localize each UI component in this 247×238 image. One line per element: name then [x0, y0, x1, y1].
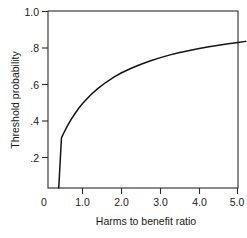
x-tick-label-5-0: 5.0: [230, 196, 245, 208]
x-axis-title: Harms to benefit ratio: [96, 215, 197, 227]
y-axis-ticks: [42, 12, 48, 158]
y-axis-title: Threshold probability: [9, 51, 21, 149]
x-tick-label-3-0: 3.0: [153, 196, 168, 208]
y-tick-label-0-6: .6: [30, 79, 39, 91]
chart-figure: 1.0 .8 .6 .4 .2 0 1.0 2.0 3.0 4.0 5.0 Ha…: [0, 0, 247, 238]
plot-frame: [48, 11, 238, 188]
y-tick-label-0-2: .2: [30, 152, 39, 164]
y-tick-label-0-4: .4: [30, 115, 39, 127]
x-tick-label-1-0: 1.0: [75, 196, 90, 208]
y-tick-label-0-8: .8: [30, 42, 39, 54]
x-tick-label-0: 0: [41, 196, 47, 208]
x-axis-ticks: [83, 188, 238, 194]
y-tick-label-1-0: 1.0: [24, 6, 39, 18]
x-tick-label-4-0: 4.0: [192, 196, 207, 208]
threshold-probability-plot: 1.0 .8 .6 .4 .2 0 1.0 2.0 3.0 4.0 5.0 Ha…: [0, 0, 247, 238]
x-tick-label-2-0: 2.0: [114, 196, 129, 208]
threshold-probability-curve: [59, 41, 246, 188]
